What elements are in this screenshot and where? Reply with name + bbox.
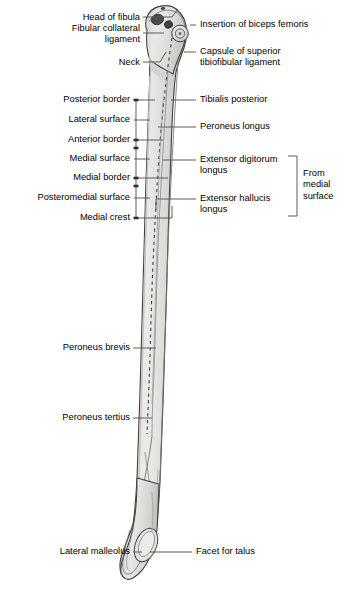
label-facet-for-talus: Facet for talus: [196, 546, 336, 557]
label-medial-border: Medial border: [30, 172, 130, 183]
superior-tibiofibular-facet-center: [179, 32, 182, 35]
bracket-tick-anterior-border-bottom: [134, 147, 139, 150]
label-posterior-border: Posterior border: [22, 94, 130, 105]
label-extensor-hallucis-longus: Extensor hallucis longus: [200, 193, 292, 216]
label-tibialis-posterior: Tibialis posterior: [200, 94, 340, 105]
label-peroneus-tertius: Peroneus tertius: [22, 412, 130, 423]
label-neck: Neck: [70, 57, 140, 68]
bone-body: [120, 6, 188, 580]
label-medial-surface: Medial surface: [26, 153, 130, 164]
label-lateral-surface: Lateral surface: [26, 114, 130, 125]
bracket-tick-medial-border-bottom: [134, 185, 139, 188]
bracket-tick-medial-crest: [134, 217, 139, 220]
label-from-medial-surface: From medial surface: [303, 168, 343, 202]
label-posteromedial-surface: Posteromedial surface: [5, 192, 130, 203]
label-anterior-border: Anterior border: [25, 134, 130, 145]
label-capsule-of-superior-tibiofibular-ligament: Capsule of superior tibiofibular ligamen…: [200, 46, 340, 69]
label-head-of-fibula: Head of fibula: [30, 12, 140, 23]
bracket-tick-posterior-border: [134, 99, 139, 102]
label-extensor-digitorum-longus: Extensor digitorum longus: [200, 154, 292, 177]
fibula-illustration: [0, 0, 344, 593]
label-peroneus-brevis: Peroneus brevis: [24, 342, 130, 353]
label-fibular-collateral-ligament: Fibular collateral ligament: [18, 23, 140, 46]
label-medial-crest: Medial crest: [38, 212, 130, 223]
bracket-tick-medial-border-top: [134, 177, 139, 180]
figure-canvas: Head of fibula Fibular collateral ligame…: [0, 0, 344, 593]
label-insertion-of-biceps-femoris: Insertion of biceps femoris: [200, 19, 342, 30]
label-peroneus-longus: Peroneus longus: [200, 121, 340, 132]
label-lateral-malleolus: Lateral malleolus: [20, 546, 130, 557]
bracket-tick-anterior-border-top: [134, 139, 139, 142]
